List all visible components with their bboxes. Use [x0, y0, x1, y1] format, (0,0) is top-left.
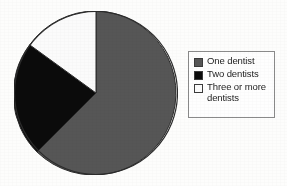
pie-chart-figure: One dentist Two dentists Three or more d…: [0, 0, 287, 186]
legend-item-one-dentist[interactable]: One dentist: [194, 56, 270, 67]
chart-legend: One dentist Two dentists Three or more d…: [188, 51, 275, 118]
legend-swatch-black-icon: [194, 71, 203, 80]
legend-swatch-white-icon: [194, 84, 203, 93]
legend-label-two-dentists: Two dentists: [207, 69, 259, 80]
pie-chart-plot-area: [14, 11, 178, 175]
pie-chart-svg: [14, 11, 178, 175]
legend-label-one-dentist: One dentist: [207, 56, 255, 67]
legend-label-three-or-more-dentists: Three or more dentists: [207, 82, 266, 103]
legend-swatch-gray-icon: [194, 58, 203, 67]
legend-item-three-or-more-dentists[interactable]: Three or more dentists: [194, 82, 270, 103]
legend-item-two-dentists[interactable]: Two dentists: [194, 69, 270, 80]
